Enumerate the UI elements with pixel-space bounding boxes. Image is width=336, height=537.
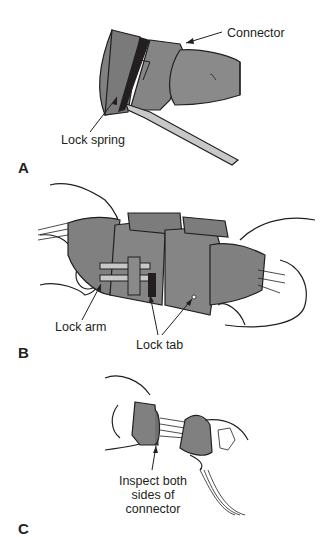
callout-inspect-line-2: sides of <box>113 488 193 502</box>
panel-c: Inspect both sides of connector C <box>0 360 336 537</box>
connector-release-illustration <box>0 0 336 175</box>
connector-lock-illustration <box>0 175 336 360</box>
callout-inspect: Inspect both sides of connector <box>113 474 193 516</box>
callout-inspect-line-3: connector <box>113 502 193 516</box>
callout-lock-spring: Lock spring <box>61 133 125 147</box>
callout-connector: Connector <box>227 26 285 40</box>
panel-b: Lock arm Lock tab B <box>0 175 336 360</box>
panel-letter-c: C <box>18 520 29 537</box>
panel-letter-b: B <box>18 344 29 361</box>
callout-lock-arm: Lock arm <box>55 320 106 334</box>
panel-a: Connector Lock spring A <box>0 0 336 175</box>
panel-letter-a: A <box>18 159 29 176</box>
callout-inspect-line-1: Inspect both <box>113 474 193 488</box>
callout-lock-tab: Lock tab <box>136 338 183 352</box>
